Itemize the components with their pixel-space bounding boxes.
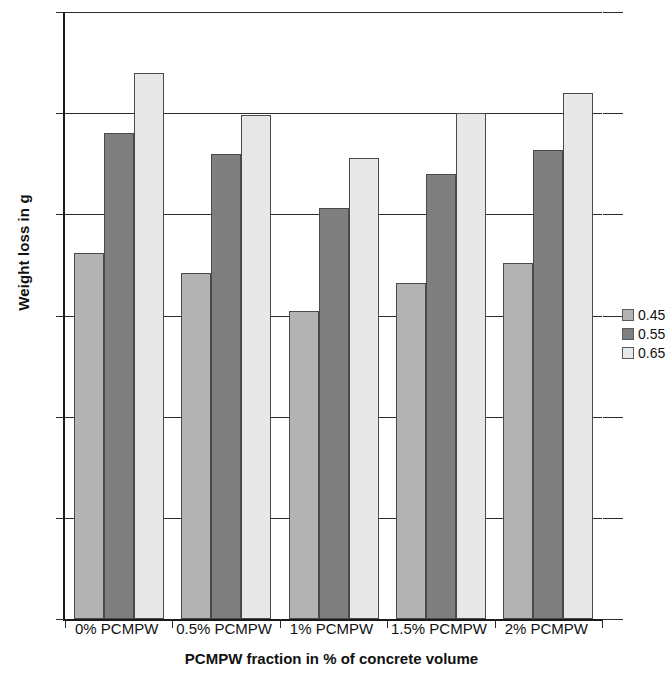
bar <box>104 133 134 619</box>
legend-item: 0.45 <box>622 305 672 324</box>
y-axis-tick-right <box>603 214 623 215</box>
y-axis-tick <box>56 113 64 114</box>
bar <box>533 150 563 619</box>
plot-area: 300250200150100500 <box>63 12 602 621</box>
legend-swatch-icon <box>622 309 634 321</box>
y-axis-tick <box>56 518 64 519</box>
x-axis-title: PCMPW fraction in % of concrete volume <box>63 650 600 667</box>
bar <box>211 154 241 619</box>
bar <box>563 93 593 619</box>
y-axis-tick-right <box>603 12 623 13</box>
bar-series-container <box>65 12 602 619</box>
y-axis-tick-right <box>603 417 623 418</box>
y-axis-tick <box>56 12 64 13</box>
bar <box>74 253 104 619</box>
y-axis-tick <box>56 417 64 418</box>
bar-group <box>74 12 164 619</box>
bar <box>289 311 319 619</box>
y-axis-title: Weight loss in g <box>15 168 32 338</box>
bar-group <box>503 12 593 619</box>
bar <box>319 208 349 619</box>
bar <box>503 263 533 619</box>
bar <box>134 73 164 619</box>
y-axis-tick-right <box>603 316 623 317</box>
bar <box>241 115 271 619</box>
chart-legend: 0.450.550.65 <box>622 305 672 362</box>
y-axis-tick <box>56 316 64 317</box>
bar <box>426 174 456 619</box>
legend-swatch-icon <box>622 347 634 359</box>
legend-label: 0.55 <box>638 326 665 342</box>
bar-chart-figure: Weight loss in g 300250200150100500 0% P… <box>0 0 672 676</box>
bar-group <box>289 12 379 619</box>
legend-swatch-icon <box>622 328 634 340</box>
y-axis-tick-right <box>603 113 623 114</box>
bar-group <box>181 12 271 619</box>
legend-item: 0.65 <box>622 343 672 362</box>
y-axis-tick-right <box>603 518 623 519</box>
bar-group <box>396 12 486 619</box>
bar <box>349 158 379 619</box>
bar <box>181 273 211 619</box>
bar <box>396 283 426 619</box>
legend-label: 0.45 <box>638 307 665 323</box>
x-axis-tick-label: 2% PCMPW <box>481 620 611 637</box>
legend-label: 0.65 <box>638 345 665 361</box>
bar <box>456 113 486 619</box>
legend-item: 0.55 <box>622 324 672 343</box>
y-axis-tick <box>56 214 64 215</box>
